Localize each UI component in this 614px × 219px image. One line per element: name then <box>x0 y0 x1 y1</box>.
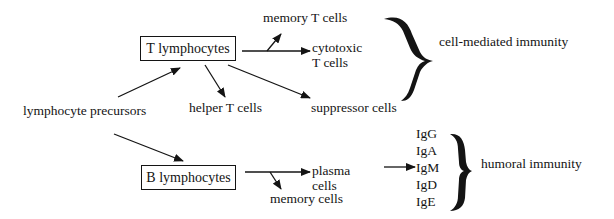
antibody-igm: IgM <box>416 160 439 175</box>
plasma-label: plasma <box>312 163 350 178</box>
antibody-igg: IgG <box>416 126 437 141</box>
cytotoxic-t-cells-label: T cells <box>312 55 348 70</box>
b-lymphocytes-box: B lymphocytes <box>141 165 236 190</box>
antibody-igd: IgD <box>416 177 437 192</box>
humoral-immunity-label: humoral immunity <box>481 156 582 171</box>
lymphocyte-precursors-label: lymphocyte precursors <box>23 103 146 118</box>
antibody-iga: IgA <box>416 143 437 158</box>
helper-t-cells-label: helper T cells <box>189 100 262 115</box>
cytotoxic-label: cytotoxic <box>312 40 362 55</box>
cell-mediated-immunity-label: cell-mediated immunity <box>439 34 568 49</box>
t-lymphocytes-box: T lymphocytes <box>140 36 236 61</box>
arrow-precursor-to-t <box>118 68 180 97</box>
arrow-t-to-helper <box>205 65 225 97</box>
arrow-precursor-to-b <box>114 134 183 161</box>
memory-t-cells-label: memory T cells <box>263 10 347 25</box>
memory-cells-label: memory cells <box>270 191 343 206</box>
arrow-b-to-memory <box>270 172 281 189</box>
arrow-t-to-suppressor <box>228 65 310 98</box>
suppressor-cells-label: suppressor cells <box>311 100 397 115</box>
arrow-t-to-memory <box>267 34 281 51</box>
brace-humoral-icon <box>450 134 472 211</box>
brace-cell-mediated-icon <box>384 17 433 101</box>
antibody-ige: IgE <box>416 194 436 209</box>
